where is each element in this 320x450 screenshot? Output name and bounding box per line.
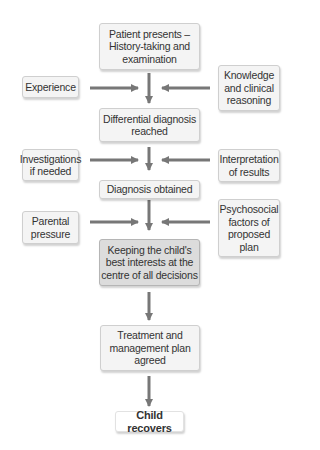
treatment-plan-label: Treatment and management plan agreed xyxy=(101,329,199,367)
investigations-label: Investigations if needed xyxy=(20,153,81,178)
interpretation-label: Interpretation of results xyxy=(219,153,279,178)
best-interests-label: Keeping the child's best interests at th… xyxy=(100,244,199,282)
parental-pressure-box: Parental pressure xyxy=(22,211,79,244)
best-interests-box: Keeping the child's best interests at th… xyxy=(99,239,200,286)
parental-pressure-label: Parental pressure xyxy=(23,215,78,240)
knowledge-label: Knowledge and clinical reasoning xyxy=(219,69,279,107)
child-recovers-box: Child recovers xyxy=(115,411,184,432)
differential-diagnosis-label: Differential diagnosis reached xyxy=(100,113,199,138)
investigations-box: Investigations if needed xyxy=(22,149,79,181)
psychosocial-label: Psychosocial factors of proposed plan xyxy=(219,203,279,253)
patient-presents-box: Patient presents – History-taking and ex… xyxy=(99,23,200,70)
experience-box: Experience xyxy=(22,76,79,98)
differential-diagnosis-box: Differential diagnosis reached xyxy=(99,108,200,142)
patient-presents-label: Patient presents – History-taking and ex… xyxy=(100,28,199,66)
diagnosis-obtained-label: Diagnosis obtained xyxy=(107,183,193,196)
psychosocial-box: Psychosocial factors of proposed plan xyxy=(218,199,280,257)
diagnosis-obtained-box: Diagnosis obtained xyxy=(99,180,200,199)
child-recovers-label: Child recovers xyxy=(116,409,183,434)
treatment-plan-box: Treatment and management plan agreed xyxy=(100,325,200,371)
experience-label: Experience xyxy=(25,81,76,94)
knowledge-box: Knowledge and clinical reasoning xyxy=(218,65,280,111)
interpretation-box: Interpretation of results xyxy=(218,149,280,182)
